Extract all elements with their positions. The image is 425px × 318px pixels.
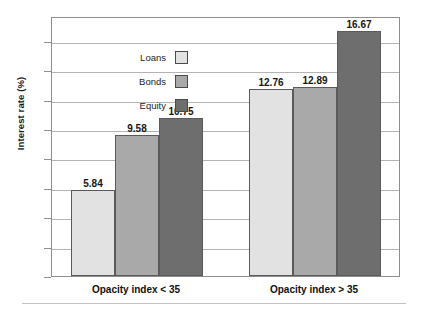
y-tick-mark [44,218,51,219]
category-label-1: Opacity index < 35 [92,284,180,295]
y-tick-mark [44,130,51,131]
y-tick-mark [44,277,51,278]
bar-loans-group2 [249,89,293,276]
bar-chart-figure: Interest rate (%) 5.849.5810.7512.7612.8… [0,0,425,318]
bar-value-label: 16.67 [346,19,371,30]
bar-equity-group1 [159,118,203,276]
y-tick-mark [44,101,51,102]
bar-equity-group2 [337,31,381,276]
bar-value-label: 5.84 [83,178,102,189]
legend-swatch-loans [175,51,188,64]
bar-loans-group1 [71,190,115,276]
y-tick-mark [44,248,51,249]
bar-value-label: 12.89 [302,75,327,86]
bar-bonds-group2 [293,87,337,276]
y-tick-mark [44,71,51,72]
legend-swatch-equity [175,99,188,112]
y-axis-title: Interest rate (%) [15,54,26,174]
bar-bonds-group1 [115,135,159,276]
bottom-divider [22,303,406,304]
y-tick-mark [44,159,51,160]
chart-legend: LoansBondsEquity [118,45,228,117]
y-tick-mark [44,189,51,190]
legend-label: Bonds [118,76,175,87]
plot-area: 5.849.5810.7512.7612.8916.67 LoansBondsE… [51,17,400,277]
bar-value-label: 9.58 [127,123,146,134]
legend-item-equity[interactable]: Equity [118,93,228,117]
legend-label: Equity [118,100,175,111]
legend-swatch-bonds [175,75,188,88]
legend-label: Loans [118,52,175,63]
bar-value-label: 12.76 [258,77,283,88]
legend-item-loans[interactable]: Loans [118,45,228,69]
y-tick-mark [44,42,51,43]
legend-item-bonds[interactable]: Bonds [118,69,228,93]
category-label-2: Opacity index > 35 [270,284,358,295]
